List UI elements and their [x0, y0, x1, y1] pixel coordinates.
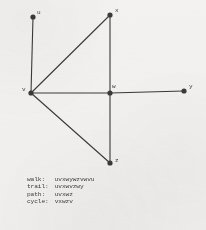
edge-v-x [31, 15, 110, 93]
scanned-page: uxvwyz walk:uvxwywzvwvutrail:uvxwvzwypat… [0, 0, 206, 230]
legend-value: vxwzv [55, 198, 95, 205]
sequence-legend: walk:uvxwywzvwvutrail:uvxwvzwypath:uvxwz… [27, 176, 187, 205]
vertex-layer [28, 12, 186, 165]
edge-layer [31, 15, 184, 163]
legend-value: uvxwywzvwvu [55, 176, 95, 183]
legend-key: cycle: [27, 198, 55, 205]
legend-row: path:uvxwz [27, 191, 94, 198]
vertex-label-u: u [37, 10, 41, 16]
legend-key: trail: [27, 183, 55, 190]
vertex-label-x: x [115, 8, 119, 14]
graph-diagram [0, 0, 206, 175]
vertex-u [30, 14, 35, 19]
vertex-w [107, 90, 112, 95]
edge-v-z [31, 93, 110, 163]
edge-w-y [110, 91, 184, 93]
edge-u-v [31, 17, 33, 93]
legend-value: uvxwvzwy [55, 183, 95, 190]
vertex-label-y: y [189, 84, 193, 90]
legend-row: trail:uvxwvzwy [27, 183, 94, 190]
legend-value: uvxwz [55, 191, 95, 198]
vertex-z [107, 160, 112, 165]
vertex-label-v: v [22, 87, 26, 93]
vertex-x [107, 12, 112, 17]
legend-key: walk: [27, 176, 55, 183]
legend-table: walk:uvxwywzvwvutrail:uvxwvzwypath:uvxwz… [27, 176, 94, 205]
legend-body: walk:uvxwywzvwvutrail:uvxwvzwypath:uvxwz… [27, 176, 94, 205]
vertex-label-z: z [115, 158, 119, 164]
legend-row: cycle:vxwzv [27, 198, 94, 205]
vertex-y [181, 88, 186, 93]
vertex-v [28, 90, 33, 95]
legend-row: walk:uvxwywzvwvu [27, 176, 94, 183]
legend-key: path: [27, 191, 55, 198]
vertex-label-w: w [112, 84, 116, 90]
